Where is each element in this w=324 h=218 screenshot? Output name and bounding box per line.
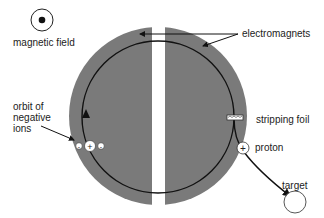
orbit-leader [41, 126, 74, 140]
target-label: target [282, 180, 308, 191]
target-icon [284, 191, 306, 213]
electromagnets-label: electromagnets [242, 28, 310, 39]
orbit-label-line1: orbit of [13, 101, 44, 112]
electromagnets-leader-right [203, 34, 238, 46]
magnetic-field-label: magnetic field [13, 37, 75, 48]
svg-text:+: + [87, 142, 92, 152]
magnetic-field-icon [31, 9, 53, 31]
orbit-label-line2: negative [13, 112, 51, 123]
proton-label: proton [255, 142, 283, 153]
stripping-foil-label: stripping foil [256, 114, 309, 125]
orbit-label-line3: ions [13, 123, 31, 134]
stripping-foil-icon [227, 115, 243, 120]
svg-text:+: + [240, 143, 246, 154]
cyclotron-diagram: + - + - magnetic field electromagnets or… [0, 0, 324, 218]
proton-icon: + [237, 142, 249, 154]
